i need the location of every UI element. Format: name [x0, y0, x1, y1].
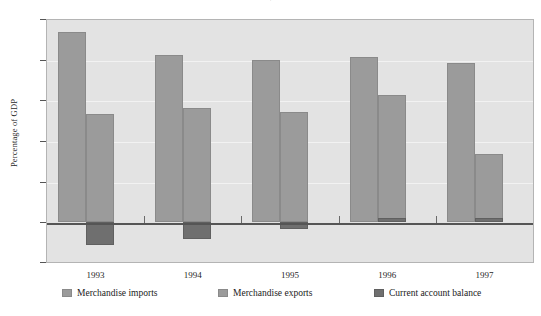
bar-imports-1997	[447, 63, 475, 222]
x-axis-label-1994: 1994	[184, 270, 202, 280]
bar-balance-1996	[378, 218, 406, 221]
gridline-40	[47, 61, 533, 62]
x-tick-1993	[144, 216, 145, 223]
x-tick-1995	[339, 216, 340, 223]
legend-swatch-balance-icon	[374, 289, 384, 297]
clipped-chart-title: .	[0, 0, 541, 1]
x-axis-label-1997: 1997	[475, 270, 493, 280]
legend-item-balance: Current account balance	[374, 288, 481, 298]
bar-balance-1997	[475, 218, 503, 222]
bar-exports-1995	[280, 112, 308, 222]
x-axis-label-1995: 1995	[281, 270, 299, 280]
bar-exports-1994	[183, 108, 211, 222]
legend-label-exports: Merchandise exports	[233, 288, 312, 298]
zero-baseline	[47, 223, 533, 225]
chart-legend: Merchandise imports Merchandise exports …	[0, 288, 541, 304]
bar-exports-1996	[378, 95, 406, 222]
bar-balance-1993	[86, 222, 114, 245]
legend-label-imports: Merchandise imports	[77, 288, 157, 298]
x-axis-label-1996: 1996	[378, 270, 396, 280]
legend-swatch-imports-icon	[62, 289, 72, 297]
bar-exports-1997	[475, 154, 503, 222]
x-tick-1996	[436, 216, 437, 223]
x-axis-label-1993: 1993	[87, 270, 105, 280]
chart-figure: . Percentage of GDP 50 40 30 20 10 0 -10…	[0, 0, 541, 316]
bar-imports-1995	[252, 60, 280, 222]
legend-item-exports: Merchandise exports	[218, 288, 312, 298]
bar-imports-1993	[58, 32, 86, 222]
legend-item-imports: Merchandise imports	[62, 288, 157, 298]
legend-label-balance: Current account balance	[389, 288, 481, 298]
y-axis-title: Percentage of GDP	[9, 63, 19, 203]
bar-imports-1996	[350, 57, 378, 222]
plot-area	[46, 19, 534, 263]
bar-exports-1993	[86, 114, 114, 222]
legend-swatch-exports-icon	[218, 289, 228, 297]
bar-imports-1994	[155, 55, 183, 222]
x-tick-1994	[241, 216, 242, 223]
